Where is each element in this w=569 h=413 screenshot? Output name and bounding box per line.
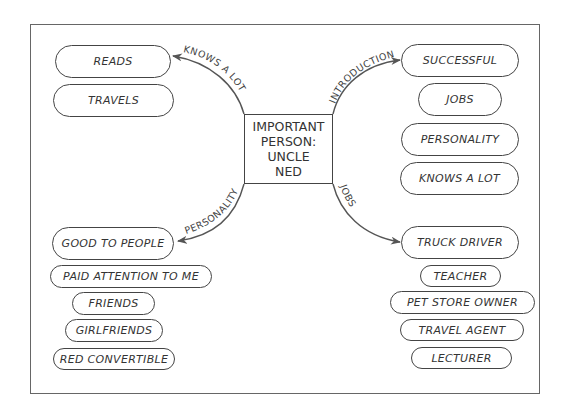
node-successful: SUCCESSFUL bbox=[401, 44, 519, 77]
branch-label-knows-a-lot: KNOWS A LOT bbox=[183, 43, 249, 93]
node-good-to-people: GOOD TO PEOPLE bbox=[52, 227, 174, 260]
node-lecturer: LECTURER bbox=[411, 347, 512, 369]
node-friends: FRIENDS bbox=[72, 292, 155, 315]
center-line: NED bbox=[275, 164, 302, 179]
center-line: UNCLE bbox=[267, 149, 309, 164]
node-jobs: JOBS bbox=[418, 83, 502, 116]
node-pet-store-owner: PET STORE OWNER bbox=[390, 291, 535, 314]
node-travels: TRAVELS bbox=[53, 84, 174, 117]
node-travel-agent: TRAVEL AGENT bbox=[400, 319, 524, 341]
node-girlfriends: GIRLFRIENDS bbox=[65, 319, 163, 342]
node-personality: PERSONALITY bbox=[401, 123, 519, 156]
node-red-convertible: RED CONVERTIBLE bbox=[53, 348, 175, 370]
node-teacher: TEACHER bbox=[420, 265, 501, 287]
center-line: PERSON: bbox=[261, 134, 316, 149]
branch-label-introduction: INTRODUCTION bbox=[327, 48, 396, 105]
node-truck-driver: TRUCK DRIVER bbox=[401, 226, 519, 259]
node-knows-a-lot: KNOWS A LOT bbox=[400, 162, 519, 195]
node-reads: READS bbox=[55, 45, 171, 78]
node-paid-attention-to-me: PAID ATTENTION TO ME bbox=[50, 265, 212, 288]
central-topic: IMPORTANT PERSON: UNCLE NED bbox=[244, 114, 333, 184]
center-line: IMPORTANT bbox=[253, 119, 325, 134]
